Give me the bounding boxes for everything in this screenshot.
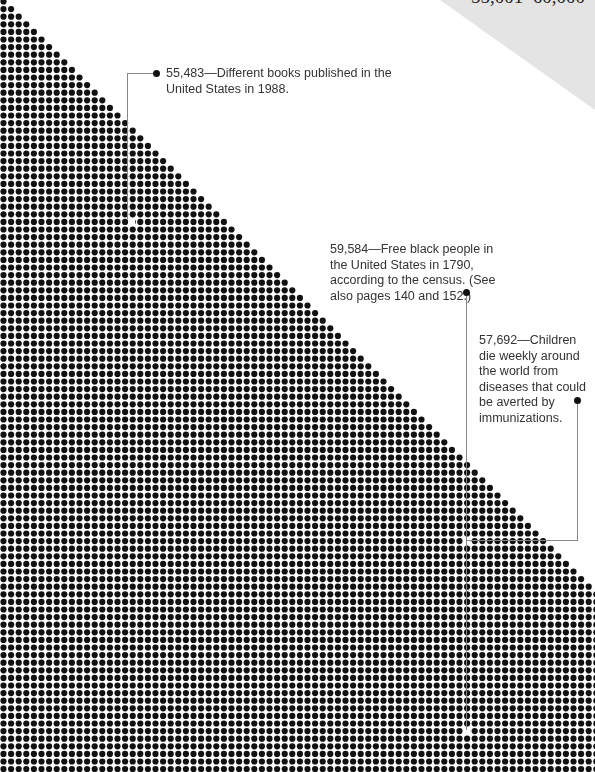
bullet-free-black-people — [463, 289, 470, 296]
leader-line-free-black-people — [466, 296, 467, 730]
bullet-books — [153, 70, 160, 77]
bullet-children — [574, 397, 581, 404]
annotation-books: 55,483—Different books published in the … — [166, 66, 396, 97]
leader-line-books-h — [127, 73, 155, 74]
leader-line-books — [127, 73, 128, 219]
leader-line-children-h — [466, 540, 578, 541]
marker-books — [128, 218, 135, 225]
annotation-free-black-people: 59,584—Free black people in the United S… — [330, 242, 510, 304]
leader-line-children-v — [577, 404, 578, 541]
